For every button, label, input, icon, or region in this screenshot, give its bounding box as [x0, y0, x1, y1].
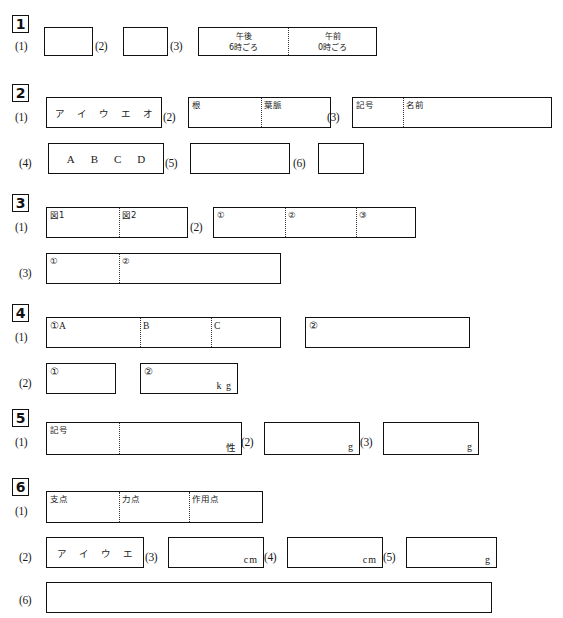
question-label-2-4: (4) — [19, 158, 31, 170]
question-label-6-1: (1) — [15, 506, 27, 518]
choice-option[interactable]: A — [67, 153, 75, 165]
choice-option[interactable]: オ — [143, 106, 153, 120]
answer-box-6-5[interactable]: g — [406, 537, 497, 568]
cell-label-5-1-a: 記号 — [50, 426, 68, 436]
question-label-3-2: (2) — [190, 222, 202, 234]
question-label-2-5: (5) — [165, 158, 177, 170]
choice-option[interactable]: イ — [79, 546, 89, 560]
question-label-5-1: (1) — [15, 437, 27, 449]
cell-divider — [403, 98, 404, 127]
cell-divider — [211, 318, 212, 347]
answer-box-3-3[interactable]: ① ② — [46, 253, 281, 284]
cell-label-4-1-c: C — [214, 321, 220, 332]
cell-divider — [119, 492, 120, 522]
cell-label-1-3-a: 午後 6時ごろ — [199, 32, 288, 54]
answer-box-4-1[interactable]: ①A B C — [46, 317, 281, 348]
answer-box-3-1[interactable]: 図1 図2 — [46, 207, 188, 238]
unit-label-g: g — [467, 442, 473, 452]
answer-box-1-3[interactable]: 午後 6時ごろ 午前 0時ごろ — [198, 27, 377, 56]
answer-box-5-3[interactable]: g — [383, 422, 479, 455]
unit-label-cm: cm — [244, 555, 258, 565]
answer-box-3-2[interactable]: ① ② ③ — [213, 207, 416, 238]
section-badge-4: 4 — [12, 304, 29, 322]
cell-label-2-3-b: 名前 — [406, 101, 424, 111]
unit-label-kg: k g — [217, 381, 233, 391]
question-label-3-3: (3) — [19, 268, 31, 280]
choice-row: ア イ ウ エ — [47, 546, 143, 560]
cell-divider — [119, 208, 120, 237]
answer-box-5-2[interactable]: g — [264, 422, 360, 455]
cell-label-2-2-a: 根 — [192, 101, 201, 111]
answer-box-2-3[interactable]: 記号 名前 — [352, 97, 552, 128]
question-label-2-6: (6) — [293, 158, 305, 170]
answer-box-5-1[interactable]: 記号 性 — [46, 422, 242, 455]
choice-option[interactable]: D — [137, 153, 145, 165]
cell-label-4-2-b: ② — [144, 367, 153, 378]
cell-label-2-2-b: 葉脈 — [264, 101, 282, 111]
cell-label-3-1-a: 図1 — [50, 211, 64, 221]
answer-box-4-1-extra[interactable]: ② — [305, 317, 470, 348]
cell-label-4-1-a: ①A — [50, 321, 66, 332]
question-label-3-1: (1) — [15, 222, 27, 234]
cell-divider — [119, 254, 120, 283]
unit-label-g: g — [485, 555, 491, 565]
cell-label-6-1-c: 作用点 — [192, 495, 219, 505]
question-label-4-1: (1) — [15, 332, 27, 344]
answer-box-2-5[interactable] — [190, 143, 290, 174]
cell-label-4-1-d: ② — [309, 321, 318, 332]
unit-label-cm: cm — [363, 555, 377, 565]
cell-divider — [140, 318, 141, 347]
choice-option[interactable]: B — [91, 153, 98, 165]
choice-option[interactable]: ウ — [99, 106, 109, 120]
section-badge-3: 3 — [12, 194, 29, 212]
answer-sheet: 1 (1) (2) (3) 午後 6時ごろ 午前 0時ごろ 2 (1) ア イ … — [0, 0, 563, 618]
cell-label-4-2-a: ① — [50, 367, 59, 378]
answer-box-1-2[interactable] — [123, 27, 168, 56]
cell-divider — [119, 423, 120, 454]
answer-box-2-6[interactable] — [318, 143, 364, 174]
cell-label-3-1-b: 図2 — [122, 211, 136, 221]
choice-row: ア イ ウ エ オ — [47, 106, 161, 120]
choice-option[interactable]: エ — [123, 546, 133, 560]
section-badge-2: 2 — [12, 84, 29, 102]
choice-option[interactable]: C — [114, 153, 121, 165]
cell-label-3-2-b: ② — [288, 211, 296, 221]
answer-box-6-1[interactable]: 支点 力点 作用点 — [46, 491, 263, 523]
answer-box-2-2[interactable]: 根 葉脈 — [188, 97, 331, 128]
choice-option[interactable]: ア — [57, 546, 67, 560]
question-label-6-5: (5) — [383, 552, 395, 564]
answer-box-4-2-extra[interactable]: ② k g — [140, 363, 238, 394]
choice-option[interactable]: エ — [121, 106, 131, 120]
answer-box-6-6[interactable] — [46, 582, 492, 613]
cell-divider — [356, 208, 357, 237]
cell-label-1-3-b: 午前 0時ごろ — [288, 32, 377, 54]
choice-row: A B C D — [49, 153, 163, 165]
section-badge-6: 6 — [12, 478, 29, 496]
unit-label-g: g — [348, 442, 354, 452]
cell-line2: 6時ごろ — [229, 43, 258, 52]
answer-box-4-2[interactable]: ① — [46, 363, 116, 394]
cell-label-4-1-b: B — [143, 321, 149, 332]
choice-option[interactable]: イ — [77, 106, 87, 120]
cell-label-3-2-a: ① — [217, 211, 225, 221]
choice-option[interactable]: ウ — [101, 546, 111, 560]
cell-divider — [189, 492, 190, 522]
question-label-2-1: (1) — [15, 112, 27, 124]
answer-box-6-4[interactable]: cm — [287, 537, 383, 568]
answer-box-6-2[interactable]: ア イ ウ エ — [46, 537, 144, 568]
cell-line1: 午後 — [236, 32, 252, 41]
answer-box-2-1[interactable]: ア イ ウ エ オ — [46, 97, 162, 128]
answer-box-1-1[interactable] — [44, 27, 93, 56]
answer-box-2-4[interactable]: A B C D — [48, 143, 164, 174]
question-label-1-1: (1) — [15, 41, 27, 53]
question-label-4-2: (2) — [19, 378, 31, 390]
answer-box-6-3[interactable]: cm — [168, 537, 264, 568]
question-label-1-2: (2) — [95, 41, 107, 53]
cell-label-3-2-c: ③ — [359, 211, 367, 221]
cell-divider — [261, 98, 262, 127]
cell-label-3-3-b: ② — [122, 257, 130, 267]
choice-option[interactable]: ア — [55, 106, 65, 120]
cell-label-6-1-b: 力点 — [122, 495, 140, 505]
section-badge-5: 5 — [12, 409, 29, 427]
cell-divider — [285, 208, 286, 237]
